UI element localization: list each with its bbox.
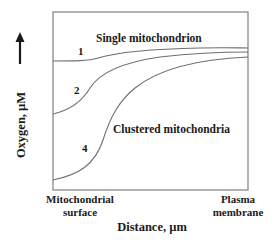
y-axis-arrow-icon [16, 32, 25, 64]
x-right-label-line2: membrane [213, 206, 264, 218]
curve-4-label: 4 [82, 142, 88, 154]
x-right-label-line1: Plasma [221, 193, 256, 205]
oxygen-distance-chart: 1 2 4 Single mitochondrion Clustered mit… [0, 0, 278, 243]
y-axis-label: Oxygen, µM [14, 92, 28, 158]
x-axis-label: Distance, µm [117, 220, 187, 234]
single-mitochondrion-annotation: Single mitochondrion [96, 32, 202, 45]
curve-2-label: 2 [74, 84, 80, 96]
x-left-label-line2: surface [63, 206, 97, 218]
curve-4 [53, 57, 248, 180]
x-left-label-line1: Mitochondrial [46, 193, 114, 205]
curve-1-label: 1 [78, 45, 84, 57]
clustered-mitochondria-annotation: Clustered mitochondria [113, 123, 230, 135]
curve-2 [53, 52, 248, 114]
